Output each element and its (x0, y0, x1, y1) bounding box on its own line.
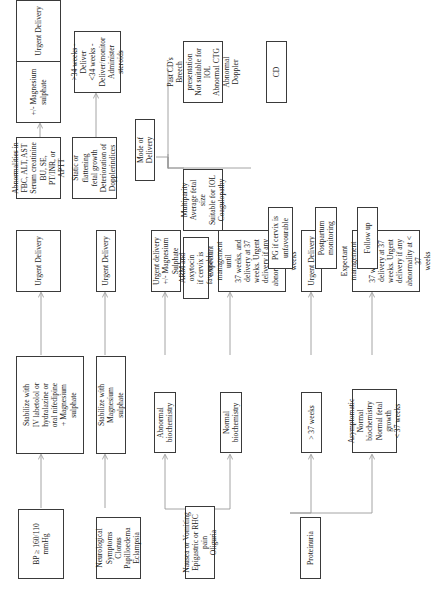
node-urgent-delivery-1: Urgent Delivery (16, 230, 61, 292)
node-asymptomatic: Asymptomatic Normal biochemistry Normal … (352, 389, 397, 453)
node-nausea-vomiting: Nausea or Vomiting Epigastric or RHC pai… (185, 506, 215, 579)
node-abnormalities-labs: Abnormalities in FBC, ALT, AST Serum cre… (16, 137, 61, 199)
node-pg-cervix: PG if cervix is unfavourable (268, 207, 293, 269)
node-mode-of-delivery: Mode of Delivery (135, 119, 155, 181)
node-weeks-34: >34 weeks - Deliver <34 weeks - Deliver/… (74, 31, 121, 93)
node-neurological: Neurological Symptoms Clonus Papilloedem… (96, 517, 141, 579)
node-urgent-delivery-4: Urgent Delivery (16, 0, 61, 62)
node-stabilize-mg: Stabilize with Magnesium sulphate (96, 356, 126, 454)
node-multiparity: Multiparity Average fetal size Suitable … (183, 169, 223, 231)
node-postpartum-monitoring: Postpartum monitoring (315, 207, 337, 269)
node-proteinuria: Proteinuria (300, 517, 321, 579)
node-past-cd: Past CD's Breech presentation Not suitab… (183, 41, 223, 103)
node-normal-biochemistry: Normal biochemistry (220, 392, 242, 453)
node-bp-high: BP ≥ 160/110 mmHg (18, 509, 64, 579)
node-urgent-delivery-2: Urgent Delivery (96, 230, 116, 292)
node-cd: CD (266, 41, 287, 103)
flowchart-canvas: BP ≥ 160/110 mmHg Stabilize with IV labe… (0, 0, 436, 599)
node-urgent-delivery-mg: Urgent delivery +/- Magnesium Sulphate (151, 230, 181, 292)
node-abnormal-biochemistry: Abnormal biochemistry (154, 392, 176, 453)
node-follow-up: Follow up (357, 207, 378, 269)
node-arm-oxytocin: ARM and oxytocin if cervix is favourable (183, 237, 209, 299)
node-stabilize-bp: Stabilize with IV labetolol or hydralazi… (16, 356, 84, 454)
node-magnesium-sulphate: +/- Magnesium sulphate (16, 61, 61, 123)
node-static-growth: Static or flattening fetal growth Deteri… (72, 137, 117, 199)
node-gt-37-weeks: > 37 weeks (301, 392, 322, 453)
